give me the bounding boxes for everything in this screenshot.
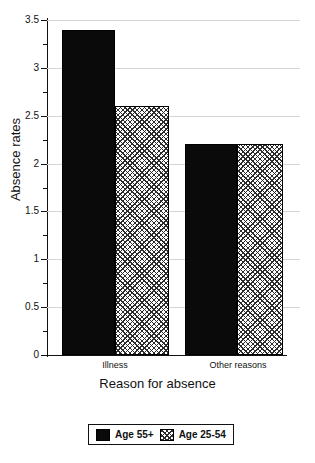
y-tick-label: 2 (33, 159, 39, 169)
chart-legend: Age 55+ Age 25-54 (88, 424, 234, 445)
x-axis-line (47, 355, 287, 356)
legend-swatch-solid-icon (96, 429, 110, 441)
bar-illness-age-55 (62, 30, 115, 355)
legend-item-age-25-54[interactable]: Age 25-54 (160, 429, 226, 441)
y-tick-minor (43, 188, 47, 189)
x-tick-label-other-reasons: Other reasons (209, 360, 266, 371)
y-tick-major (41, 211, 47, 212)
y-tick-label: 3.5 (25, 15, 39, 25)
y-tick-minor (43, 283, 47, 284)
y-tick-label: 0.5 (25, 302, 39, 312)
bar-other-reasons-age-25-54 (237, 144, 283, 355)
bar-illness-age-25-54 (115, 106, 169, 355)
y-tick-minor (43, 331, 47, 332)
plot-area: 00.511.522.533.5 (47, 20, 300, 355)
y-tick-major (41, 355, 47, 356)
y-tick-major (41, 68, 47, 69)
y-tick-label: 1.5 (25, 206, 39, 216)
y-tick-major (41, 20, 47, 21)
y-tick-label: 3 (33, 63, 39, 73)
y-axis-title: Absence rates (8, 90, 23, 230)
legend-label-age-25-54: Age 25-54 (179, 429, 226, 440)
y-tick-label: 0 (33, 350, 39, 360)
y-tick-minor (43, 140, 47, 141)
y-tick-label: 1 (33, 254, 39, 264)
legend-item-age-55-plus[interactable]: Age 55+ (96, 429, 154, 441)
legend-swatch-crosshatch-icon (160, 429, 174, 441)
legend-label-age-55-plus: Age 55+ (115, 429, 154, 440)
bar-other-reasons-age-55 (185, 144, 237, 355)
y-tick-major (41, 116, 47, 117)
y-tick-minor (43, 235, 47, 236)
x-axis-title: Reason for absence (0, 376, 315, 391)
y-tick-label: 2.5 (25, 111, 39, 121)
y-tick-minor (43, 44, 47, 45)
gridline (47, 20, 300, 21)
y-tick-major (41, 307, 47, 308)
y-tick-major (41, 259, 47, 260)
bar-chart-figure: Absence rates 00.511.522.533.5 Illness O… (0, 0, 315, 463)
y-tick-minor (43, 92, 47, 93)
y-tick-major (41, 164, 47, 165)
x-tick-label-illness: Illness (102, 360, 128, 371)
